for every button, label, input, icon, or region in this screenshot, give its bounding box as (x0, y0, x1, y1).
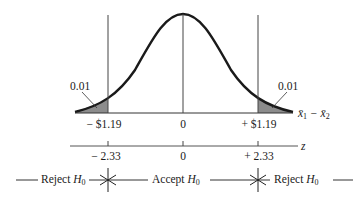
right-leader-line (272, 92, 287, 108)
z-tick-right: + 2.33 (244, 151, 274, 163)
right-tail-area-label: 0.01 (278, 81, 298, 93)
z-tick-center-label: 0 (180, 151, 186, 163)
distribution-graphic (0, 0, 364, 199)
left-leader-line (82, 92, 97, 108)
x-tick-center: 0 (180, 119, 186, 131)
left-tail-area-label: 0.01 (70, 81, 90, 93)
accept-label: Accept H0 (152, 174, 200, 187)
reject-left-label: Reject H0 (41, 174, 86, 187)
x-axis-label: x̄1 − x̄2 (298, 108, 330, 121)
x-tick-left: − $1.19 (86, 119, 121, 131)
z-axis-label: z (301, 141, 305, 153)
z-tick-left: − 2.33 (91, 151, 121, 163)
reject-right-label: Reject H0 (274, 174, 319, 187)
x-tick-right: + $1.19 (241, 119, 276, 131)
